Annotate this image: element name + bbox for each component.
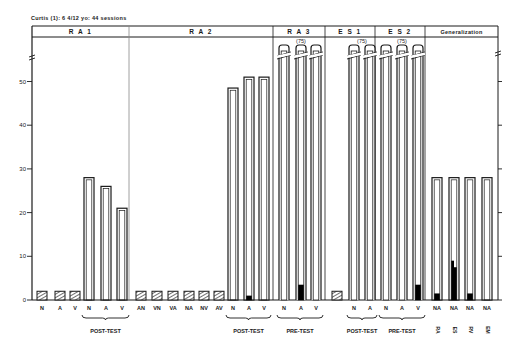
- x-tick-label: N: [282, 305, 286, 311]
- bar-hatched: [332, 291, 342, 300]
- group-brace: [226, 315, 271, 320]
- bar-hatched: [168, 291, 178, 300]
- x-tick-label: V: [73, 305, 77, 311]
- y-tick-label: 50: [19, 79, 26, 85]
- bar-hatched: [37, 291, 47, 300]
- bars: [37, 45, 492, 300]
- panel-headers: R A 1R A 2R A 3(75)E S 1(75)E S 2(75)Gen…: [69, 28, 483, 44]
- bar-hatched: [136, 291, 146, 300]
- x-sub-label: RV: [468, 327, 474, 335]
- x-tick-label: NA: [433, 305, 441, 311]
- x-axis-labels: NAVNAVPOST-TESTANVNVANANVAVNAVPOST-TESTN…: [40, 305, 491, 334]
- group-brace: [277, 315, 323, 320]
- bar-open: [465, 178, 475, 300]
- x-tick-label: AN: [137, 305, 145, 311]
- group-label: PRE-TEST: [286, 328, 314, 334]
- bar-broken: [311, 45, 321, 300]
- bar-annotation: (75): [296, 38, 306, 44]
- bar-broken: [381, 45, 391, 300]
- panel-header-es2: E S 2: [388, 28, 411, 35]
- panel-header-ra1: R A 1: [69, 28, 93, 35]
- bar-hatched: [152, 291, 162, 300]
- bar-hatched: [184, 291, 194, 300]
- group-brace: [82, 315, 129, 320]
- panel-header-ra3: R A 3: [287, 28, 311, 35]
- x-tick-label: AV: [215, 305, 223, 311]
- x-tick-label: VN: [153, 305, 161, 311]
- x-tick-label: N: [40, 305, 44, 311]
- x-tick-label: N: [352, 305, 356, 311]
- x-tick-label: A: [400, 305, 404, 311]
- x-sub-label: RA: [435, 326, 441, 334]
- group-label: POST-TEST: [90, 328, 121, 334]
- group-label: PRE-TEST: [388, 328, 416, 334]
- x-tick-label: N: [384, 305, 388, 311]
- bar-open: [117, 208, 127, 300]
- x-tick-label: V: [314, 305, 318, 311]
- bar-annotation: (75): [397, 38, 407, 44]
- x-sub-label: ES: [452, 327, 458, 334]
- x-sub-label: EM: [485, 326, 491, 334]
- bar-open: [244, 77, 254, 300]
- x-tick-label: N: [87, 305, 91, 311]
- group-label: POST-TEST: [233, 328, 264, 334]
- x-tick-label: A: [247, 305, 251, 311]
- x-tick-label: N: [231, 305, 235, 311]
- bar-broken: [349, 45, 359, 300]
- bar-open: [482, 178, 492, 300]
- y-tick-label: 30: [19, 166, 26, 172]
- bar-broken: [296, 45, 306, 300]
- bar-open: [259, 77, 269, 300]
- bar-hatched: [55, 291, 65, 300]
- group-label: POST-TEST: [347, 328, 378, 334]
- bar-open: [432, 178, 442, 300]
- bar-hatched: [214, 291, 224, 300]
- group-brace: [379, 315, 425, 320]
- x-tick-label: V: [262, 305, 266, 311]
- group-brace: [347, 315, 377, 320]
- panel-header-ra2: R A 2: [189, 28, 213, 35]
- x-tick-label: V: [416, 305, 420, 311]
- bar-open: [101, 186, 111, 300]
- x-tick-label: V: [120, 305, 124, 311]
- x-tick-label: A: [104, 305, 108, 311]
- bar-broken: [279, 45, 289, 300]
- bar-broken: [397, 45, 407, 300]
- panel-header-gen: Generalization: [440, 29, 482, 35]
- x-tick-label: NA: [185, 305, 193, 311]
- x-tick-label: A: [299, 305, 303, 311]
- x-tick-label: A: [58, 305, 62, 311]
- bar-broken: [413, 45, 423, 300]
- y-tick-label: 40: [19, 122, 26, 128]
- bar-annotation: (75): [357, 38, 367, 44]
- bar-open: [84, 178, 94, 300]
- y-tick-label: 0: [23, 297, 27, 303]
- bar-broken: [365, 45, 375, 300]
- x-tick-label: NA: [483, 305, 491, 311]
- x-tick-label: VA: [169, 305, 176, 311]
- panel-header-es1: E S 1: [338, 28, 361, 35]
- bar-hatched: [70, 291, 80, 300]
- x-tick-label: NA: [466, 305, 474, 311]
- x-tick-label: NA: [450, 305, 458, 311]
- bar-open: [228, 88, 238, 300]
- bar-chart: R A 1R A 2R A 3(75)E S 1(75)E S 2(75)Gen…: [0, 0, 526, 357]
- y-tick-label: 10: [19, 253, 26, 259]
- x-tick-label: A: [368, 305, 372, 311]
- y-tick-label: 20: [19, 210, 26, 216]
- x-tick-label: NV: [200, 305, 208, 311]
- bar-hatched: [199, 291, 209, 300]
